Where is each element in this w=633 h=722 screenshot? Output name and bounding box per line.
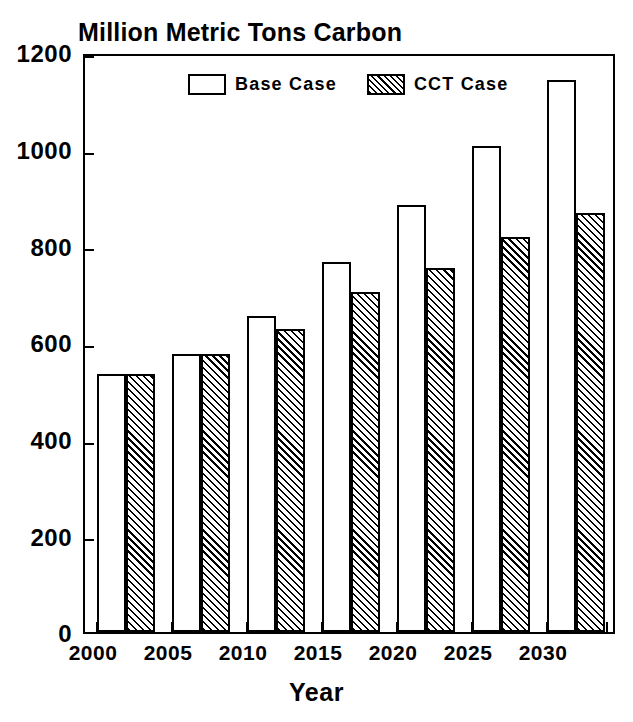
y-axis-label-600: 600 (0, 332, 72, 356)
chart-title: Million Metric Tons Carbon (78, 20, 402, 45)
bar-2010-cct-case (276, 329, 305, 632)
legend-label-cct-case: CCT Case (414, 74, 509, 95)
y-axis-label-200: 200 (0, 526, 72, 550)
y-axis-label-1200: 1200 (0, 42, 72, 66)
legend-item-base-case: Base Case (188, 74, 337, 95)
bar-2000-base-case (97, 374, 126, 632)
legend-swatch-base-case-icon (188, 74, 226, 95)
bar-2025-base-case (472, 146, 501, 632)
bars-layer (85, 56, 613, 632)
x-axis-title: Year (0, 678, 633, 707)
y-axis-label-1000: 1000 (0, 139, 72, 163)
bar-2030-base-case (547, 80, 576, 632)
bar-2015-cct-case (351, 292, 380, 632)
bar-2015-base-case (322, 262, 351, 632)
legend-label-base-case: Base Case (235, 74, 337, 95)
chart-legend: Base Case CCT Case (188, 74, 509, 95)
bar-2020-base-case (397, 205, 426, 632)
bar-2025-cct-case (501, 237, 530, 632)
x-axis-label-2030: 2030 (498, 642, 588, 663)
y-axis-label-400: 400 (0, 429, 72, 453)
y-axis-label-800: 800 (0, 236, 72, 260)
bar-2010-base-case (247, 316, 276, 632)
plot-area: Base Case CCT Case (83, 54, 615, 634)
legend-swatch-cct-case-icon (367, 74, 405, 95)
legend-item-cct-case: CCT Case (367, 74, 509, 95)
bar-2030-cct-case (576, 213, 605, 632)
bar-2020-cct-case (426, 268, 455, 632)
bar-2005-cct-case (201, 354, 230, 632)
bar-2005-base-case (172, 354, 201, 632)
chart-figure: Million Metric Tons Carbon 1200 1000 800… (0, 0, 633, 722)
bar-2000-cct-case (126, 374, 155, 632)
